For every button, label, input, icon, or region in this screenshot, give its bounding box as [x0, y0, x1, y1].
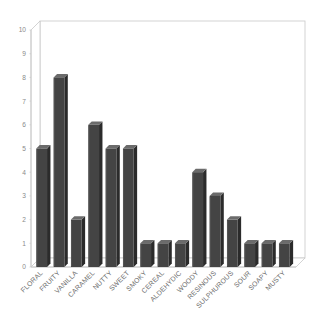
- y-tick-label: 3: [22, 192, 26, 199]
- bar-front-face: [36, 149, 47, 268]
- bar: [227, 216, 241, 267]
- bar: [54, 74, 68, 267]
- y-tick-label: 6: [22, 121, 26, 128]
- bar-front-face: [244, 243, 255, 267]
- bar-chart: 012345678910 FLORALFRUITYVANILLACARAMELN…: [0, 0, 333, 327]
- bar-side-face: [47, 145, 50, 267]
- bar-front-face: [88, 125, 99, 267]
- y-tick-label: 4: [22, 169, 26, 176]
- bar-front-face: [140, 243, 151, 267]
- bar-side-face: [290, 240, 293, 267]
- bar-front-face: [175, 243, 186, 267]
- bar-front-face: [158, 243, 169, 267]
- y-tick-label: 1: [22, 240, 26, 247]
- bar-side-face: [238, 216, 241, 267]
- bar-side-face: [186, 240, 189, 267]
- bar: [192, 169, 206, 267]
- y-tick-label: 10: [19, 26, 27, 33]
- bar-front-face: [106, 149, 117, 268]
- bar: [279, 240, 293, 267]
- x-axis-category-labels: FLORALFRUITYVANILLACARAMELNUTTYSWEETSMOK…: [19, 269, 286, 309]
- bar-front-face: [71, 220, 82, 267]
- chart-canvas: 012345678910 FLORALFRUITYVANILLACARAMELN…: [0, 0, 333, 327]
- bar-front-face: [227, 220, 238, 267]
- bar-front-face: [54, 77, 65, 267]
- bar-side-face: [203, 169, 206, 267]
- y-tick-label: 2: [22, 216, 26, 223]
- bar-side-face: [99, 121, 102, 267]
- bar-front-face: [279, 243, 290, 267]
- bar: [158, 240, 172, 267]
- bar-front-face: [123, 149, 134, 268]
- bar: [36, 145, 50, 267]
- y-axis-tick-labels: 012345678910: [19, 26, 31, 270]
- y-tick-label: 8: [22, 74, 26, 81]
- y-tick-label: 9: [22, 50, 26, 57]
- bar-side-face: [255, 240, 258, 267]
- bar: [123, 145, 137, 267]
- bar-front-face: [192, 172, 203, 267]
- bar-front-face: [262, 243, 273, 267]
- bar-side-face: [134, 145, 137, 267]
- bar: [210, 192, 224, 267]
- bar-side-face: [220, 192, 223, 267]
- bar: [88, 121, 102, 267]
- bar-side-face: [272, 240, 275, 267]
- y-tick-label: 5: [22, 145, 26, 152]
- bar-side-face: [168, 240, 171, 267]
- bar: [71, 216, 85, 267]
- y-tick-label: 7: [22, 98, 26, 105]
- bar: [140, 240, 154, 267]
- bar: [106, 145, 120, 267]
- bar: [175, 240, 189, 267]
- bar-front-face: [210, 196, 221, 267]
- bar-side-face: [64, 74, 67, 267]
- bar-side-face: [116, 145, 119, 267]
- bar: [244, 240, 258, 267]
- bar-side-face: [151, 240, 154, 267]
- bar-side-face: [82, 216, 85, 267]
- y-tick-label: 0: [22, 263, 26, 270]
- bar: [262, 240, 276, 267]
